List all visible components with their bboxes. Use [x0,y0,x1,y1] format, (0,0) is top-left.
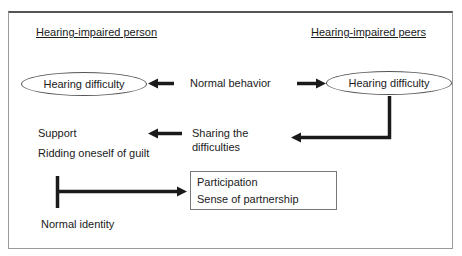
arrow-right-icon [297,79,326,89]
t-bar-arrow-icon [58,176,188,208]
node-sharing-line1: Sharing the [192,127,248,140]
node-ridding-guilt: Ridding oneself of guilt [38,147,149,160]
node-sharing-line2: difficulties [192,141,240,154]
arrow-left-icon [148,79,174,89]
elbow-arrow-icon [291,96,391,143]
node-outcome-box: Participation Sense of partnership [190,171,337,210]
outcome-sense-of-partnership: Sense of partnership [197,193,299,206]
node-normal-behavior: Normal behavior [190,77,271,90]
node-normal-identity: Normal identity [41,218,114,231]
node-right-hearing-difficulty: Hearing difficulty [326,71,452,95]
node-right-hearing-difficulty-label: Hearing difficulty [348,77,429,89]
node-support: Support [38,127,77,140]
outcome-participation: Participation [197,176,258,189]
arrow-left-small-icon [148,129,182,139]
